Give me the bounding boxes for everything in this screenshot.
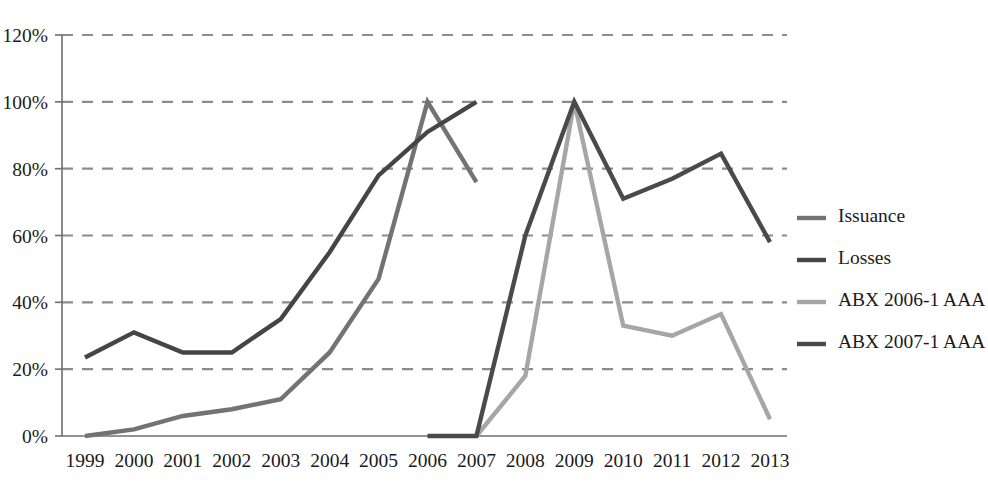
y-tick-label-20: 20%	[12, 359, 48, 380]
y-tick-label-0: 0%	[22, 426, 48, 447]
x-tick-label-2005: 2005	[359, 450, 398, 471]
y-tick-label-100: 100%	[3, 92, 49, 113]
y-tick-label-40: 40%	[12, 292, 48, 313]
y-tick-label-60: 60%	[12, 226, 48, 247]
x-tick-labels: 1999200020012002200320042005200620072008…	[66, 450, 790, 471]
x-tick-label-2009: 2009	[555, 450, 594, 471]
x-tick-label-2001: 2001	[163, 450, 202, 471]
x-tick-label-2011: 2011	[653, 450, 691, 471]
x-tick-label-2002: 2002	[212, 450, 251, 471]
x-tick-label-2003: 2003	[261, 450, 300, 471]
x-tick-label-2012: 2012	[702, 450, 741, 471]
x-tick-label-2008: 2008	[506, 450, 545, 471]
x-tick-label-2006: 2006	[408, 450, 447, 471]
y-tick-label-80: 80%	[12, 159, 48, 180]
legend-label-1: Losses	[838, 247, 891, 268]
legend-label-0: Issuance	[838, 205, 905, 226]
x-tick-label-2013: 2013	[751, 450, 790, 471]
chart-container: 120%100%80%60%40%20%0% 19992000200120022…	[0, 0, 988, 487]
legend-label-3: ABX 2007-1 AAA	[838, 331, 985, 352]
x-tick-label-2000: 2000	[114, 450, 153, 471]
x-tick-label-2010: 2010	[604, 450, 643, 471]
x-tick-label-1999: 1999	[66, 450, 105, 471]
x-tick-label-2007: 2007	[457, 450, 496, 471]
y-tick-label-120: 120%	[3, 25, 49, 46]
legend-label-2: ABX 2006-1 AAA	[838, 289, 985, 310]
line-chart: 120%100%80%60%40%20%0% 19992000200120022…	[0, 0, 988, 487]
x-tick-label-2004: 2004	[310, 450, 349, 471]
